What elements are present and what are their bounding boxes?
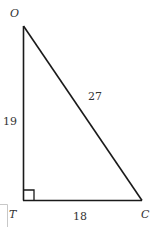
- side-length-TC: 18: [73, 210, 87, 223]
- right-triangle-diagram: O T C 19 18 27: [0, 0, 153, 227]
- side-length-OT: 19: [3, 115, 17, 128]
- vertex-label-O: O: [10, 7, 19, 20]
- side-length-OC: 27: [88, 90, 102, 103]
- faint-box-fragment: [0, 205, 8, 228]
- side-OC: [24, 26, 143, 201]
- vertex-label-C: C: [141, 208, 150, 221]
- right-angle-marker: [24, 190, 35, 201]
- vertex-label-T: T: [9, 208, 18, 221]
